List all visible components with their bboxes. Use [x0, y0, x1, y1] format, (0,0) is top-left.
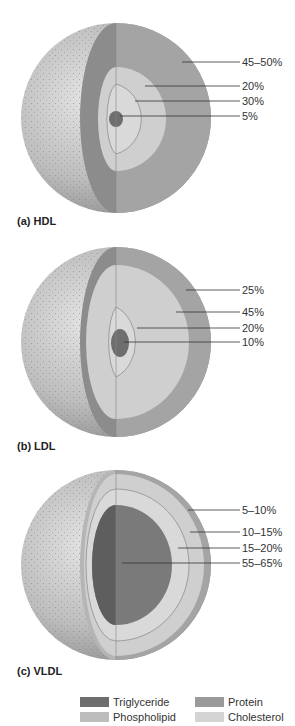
vldl-particle: 5–10% 10–15% 15–20% 55–65% (c) VLDL [17, 470, 283, 677]
vldl-triglyceride-pct: 55–65% [242, 557, 283, 569]
hdl-cholesterol-pct: 30% [242, 95, 264, 107]
legend-swatch-protein [195, 697, 224, 707]
legend-label-phospholipid: Phospholipid [113, 711, 176, 723]
ldl-protein-pct: 25% [242, 284, 264, 296]
ldl-triglyceride-pct: 10% [242, 336, 264, 348]
ldl-phospholipid-pct: 20% [242, 322, 264, 334]
legend: Triglyceride Protein Phospholipid Choles… [80, 696, 284, 723]
vldl-caption: (c) VLDL [17, 665, 63, 677]
hdl-caption: (a) HDL [17, 215, 56, 227]
legend-label-cholesterol: Cholesterol [228, 711, 284, 723]
hdl-particle: 45–50% 20% 30% 5% (a) HDL [17, 23, 283, 227]
legend-swatch-phospholipid [80, 712, 109, 722]
hdl-protein-pct: 45–50% [242, 56, 283, 68]
ldl-particle: 25% 45% 20% 10% (b) LDL [17, 247, 264, 452]
hdl-triglyceride-pct: 5% [242, 110, 258, 122]
legend-swatch-triglyceride [80, 697, 109, 707]
vldl-protein-pct: 5–10% [242, 504, 276, 516]
legend-label-protein: Protein [228, 696, 263, 708]
vldl-cholesterol-pct: 10–15% [242, 526, 283, 538]
vldl-phospholipid-pct: 15–20% [242, 542, 283, 554]
ldl-triglyceride-core [111, 329, 129, 357]
lipoprotein-diagram: 45–50% 20% 30% 5% (a) HDL 25% 45% 20% 10… [0, 0, 295, 726]
legend-swatch-cholesterol [195, 712, 224, 722]
ldl-caption: (b) LDL [17, 440, 56, 452]
legend-label-triglyceride: Triglyceride [113, 696, 169, 708]
ldl-cholesterol-pct: 45% [242, 306, 264, 318]
hdl-phospholipid-pct: 20% [242, 80, 264, 92]
